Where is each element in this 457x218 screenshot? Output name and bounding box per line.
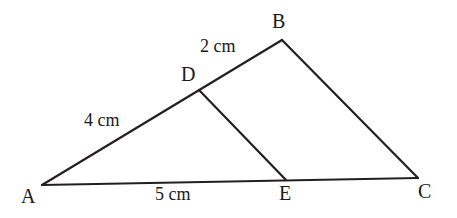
- segment-DE: [199, 90, 286, 180]
- measure-label-DB: 2 cm: [200, 37, 236, 55]
- measure-label-AE: 5 cm: [155, 185, 191, 203]
- vertex-label-E: E: [279, 183, 291, 203]
- vertex-label-B: B: [272, 11, 285, 31]
- segment-BC: [282, 40, 418, 178]
- vertex-label-C: C: [418, 181, 431, 201]
- geometry-diagram: A B C D E 4 cm 2 cm 5 cm: [0, 0, 457, 218]
- segment-AC: [42, 178, 418, 185]
- segment-AB: [42, 40, 282, 185]
- triangle-figure: [0, 0, 457, 218]
- measure-label-AD: 4 cm: [84, 111, 120, 129]
- vertex-label-A: A: [21, 186, 35, 206]
- vertex-label-D: D: [181, 64, 195, 84]
